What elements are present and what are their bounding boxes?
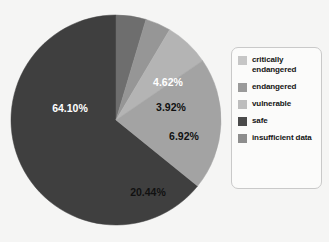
pie-svg: 64.10%4.62%3.92%6.92%20.44% [8,10,224,230]
legend-item[interactable]: critically endangered [238,55,316,75]
legend-item[interactable]: endangered [238,82,316,92]
legend-item[interactable]: vulnerable [238,99,316,109]
pie-slice-label: 64.10% [52,102,88,114]
legend-label: insufficient data [252,133,312,143]
pie-plot-area: 64.10%4.62%3.92%6.92%20.44% [8,10,224,230]
pie-slice-label: 3.92% [156,101,186,113]
chart-legend: critically endangered endangered vulnera… [231,47,322,189]
pie-slices [11,15,221,225]
pie-chart-figure: 64.10%4.62%3.92%6.92%20.44% critically e… [0,0,329,242]
legend-label: vulnerable [252,99,291,109]
legend-swatch-vulnerable [238,100,247,109]
legend-label: safe [252,116,268,126]
pie-slice-label: 4.62% [153,76,183,88]
legend-label: critically endangered [252,55,316,75]
legend-swatch-safe [238,117,247,126]
pie-slice-label: 20.44% [130,186,166,198]
legend-swatch-critically-endangered [238,56,247,65]
legend-item[interactable]: safe [238,116,316,126]
chart-title [0,0,329,4]
legend-swatch-insufficient-data [238,134,247,143]
legend-label: endangered [252,82,296,92]
legend-item[interactable]: insufficient data [238,133,316,143]
legend-swatch-endangered [238,83,247,92]
pie-slice-label: 6.92% [169,130,199,142]
